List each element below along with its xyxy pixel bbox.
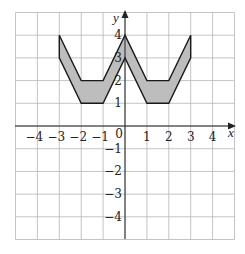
y-tick-label: −1: [104, 142, 122, 156]
x-tick-label: 4: [209, 130, 217, 144]
x-tick-label: 2: [165, 130, 173, 144]
x-tick-label: −2: [69, 130, 87, 144]
y-tick-label: 4: [114, 28, 122, 42]
y-axis-arrow-icon: [122, 10, 129, 18]
y-tick-label: −3: [104, 187, 122, 201]
y-tick-label: −2: [104, 164, 122, 178]
x-tick-label: 1: [143, 130, 151, 144]
x-tick-label: −4: [26, 130, 44, 144]
x-tick-label: −3: [47, 130, 65, 144]
origin-label: 0: [115, 127, 123, 141]
y-tick-label: 2: [114, 74, 122, 88]
y-tick-label: 3: [114, 51, 122, 65]
y-tick-label: 1: [114, 96, 122, 110]
coordinate-grid-figure: x y −4−3−2−112344321−1−2−3−40: [0, 0, 245, 254]
y-axis-label: y: [111, 10, 119, 25]
x-tick-label: 3: [187, 130, 195, 144]
x-axis-label: x: [227, 125, 234, 140]
y-tick-label: −4: [104, 210, 122, 224]
